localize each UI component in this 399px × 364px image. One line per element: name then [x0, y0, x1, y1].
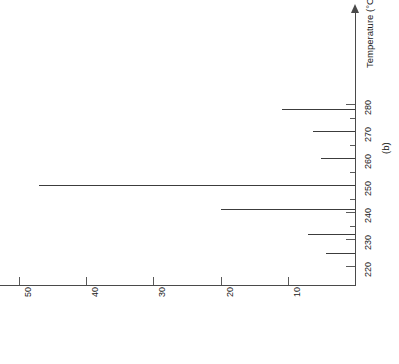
- temperature-tick: [346, 212, 355, 213]
- intensity-tick-label: 50: [24, 287, 33, 297]
- thermogram-figure: 220230240250260270280 1020304050 Tempera…: [0, 0, 399, 364]
- temperature-tick-label: 250: [364, 181, 373, 196]
- temperature-tick: [350, 199, 355, 200]
- temperature-axis-line: [355, 10, 356, 286]
- panel-label: (b): [380, 142, 391, 154]
- peak-line: [308, 234, 355, 235]
- intensity-tick: [288, 277, 289, 285]
- temperature-tick-label: 280: [364, 100, 373, 115]
- peak-line: [39, 185, 355, 186]
- temperature-tick: [350, 172, 355, 173]
- axis-arrow-icon: [351, 4, 359, 13]
- peak-line: [313, 131, 355, 132]
- intensity-tick-label: 20: [226, 287, 235, 297]
- peak-line: [221, 209, 355, 210]
- intensity-tick: [19, 277, 20, 285]
- temperature-tick-label: 270: [364, 127, 373, 142]
- intensity-tick: [153, 277, 154, 285]
- temperature-tick: [346, 266, 355, 267]
- temperature-axis-title: Temperature (°C): [364, 0, 375, 68]
- temperature-tick: [350, 145, 355, 146]
- temperature-tick: [350, 118, 355, 119]
- peak-line: [326, 253, 355, 254]
- intensity-axis-line: [0, 285, 356, 286]
- intensity-tick: [221, 277, 222, 285]
- intensity-tick-label: 40: [91, 287, 100, 297]
- temperature-tick-label: 230: [364, 235, 373, 250]
- temperature-tick-label: 220: [364, 262, 373, 277]
- temperature-tick-label: 260: [364, 154, 373, 169]
- temperature-tick: [350, 226, 355, 227]
- intensity-tick: [86, 277, 87, 285]
- peak-line: [282, 109, 355, 110]
- peak-line: [321, 158, 355, 159]
- intensity-tick-label: 30: [158, 287, 167, 297]
- temperature-tick-label: 240: [364, 208, 373, 223]
- temperature-tick: [346, 239, 355, 240]
- intensity-tick-label: 10: [293, 287, 302, 297]
- temperature-tick: [346, 104, 355, 105]
